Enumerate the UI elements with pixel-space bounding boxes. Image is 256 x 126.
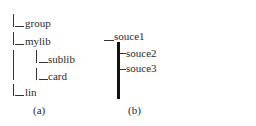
tree-connector-line xyxy=(15,26,24,27)
tree-node-card: card xyxy=(48,71,67,82)
figure-a-caption: (a) xyxy=(33,105,45,116)
figure-b-caption: (b) xyxy=(128,105,141,116)
tree-node-souce2: souce2 xyxy=(126,48,157,59)
tree-node-souce1: souce1 xyxy=(114,31,145,42)
tree-branch-line xyxy=(36,50,37,63)
tree-node-lin: lin xyxy=(25,87,37,98)
tree-branch-line xyxy=(13,32,14,45)
tree-node-souce3: souce3 xyxy=(126,63,157,74)
tree-connector-line xyxy=(15,44,24,45)
tree-branch-line xyxy=(13,14,14,27)
tree-node-mylib: mylib xyxy=(25,36,51,47)
root-underline xyxy=(104,40,114,41)
tree-connector-line xyxy=(15,95,24,96)
tree-node-sublib: sublib xyxy=(48,54,75,65)
tree-connector-line xyxy=(39,62,48,63)
trunk-bar xyxy=(117,42,120,99)
tree-branch-line xyxy=(13,84,14,96)
tree-branch-line xyxy=(36,68,37,80)
tree-connector-line xyxy=(39,79,48,80)
tree-node-group: group xyxy=(25,18,51,29)
tree-branch-line xyxy=(13,50,14,80)
